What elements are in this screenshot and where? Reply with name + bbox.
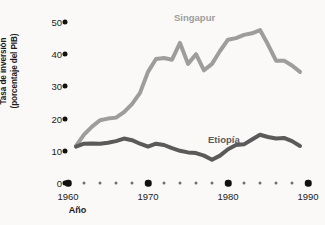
- series-line-etiopa: [76, 135, 300, 160]
- series-line-singapur: [76, 30, 300, 146]
- series-label-etiopia: Etiopía: [208, 134, 240, 145]
- series-label-singapur: Singapur: [174, 12, 215, 23]
- x-axis-title: Año: [69, 205, 87, 215]
- plot-area: [0, 0, 325, 225]
- investment-rate-line-chart: Tasa de inversión (porcentaje del PIB) 5…: [0, 0, 325, 225]
